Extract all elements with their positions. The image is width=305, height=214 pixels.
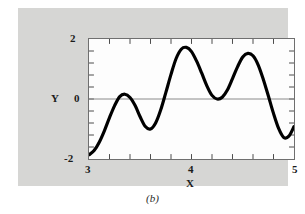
data-curve (89, 47, 294, 155)
ytick-label-bottom: -2 (64, 153, 73, 164)
figure-caption: (b) (0, 192, 305, 204)
figure-root: 2 0 -2 3 4 5 Y X (b) (0, 0, 305, 214)
ytick-label-top: 2 (70, 33, 76, 44)
xtick-label-mid: 4 (188, 164, 194, 175)
x-axis-title: X (186, 178, 194, 189)
plot-svg (89, 39, 294, 159)
y-axis-title: Y (51, 93, 59, 104)
plot-area (88, 38, 295, 160)
xtick-label-right: 5 (292, 164, 298, 175)
ytick-label-mid: 0 (74, 93, 80, 104)
xtick-label-left: 3 (85, 164, 91, 175)
chart-panel: 2 0 -2 3 4 5 Y X (18, 8, 288, 186)
